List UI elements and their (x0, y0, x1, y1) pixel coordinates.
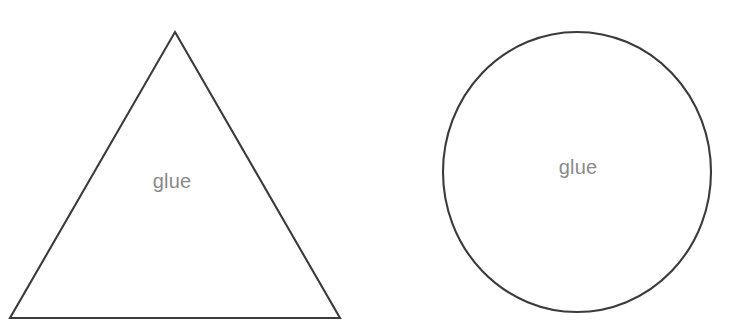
shapes-diagram: glue glue (0, 0, 747, 336)
circle-glue-label: glue (559, 156, 598, 178)
diagram-canvas: glue glue (0, 0, 747, 336)
triangle-glue-label: glue (153, 170, 192, 192)
